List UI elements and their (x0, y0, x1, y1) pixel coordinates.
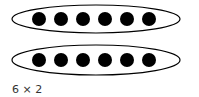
group-1 (12, 5, 180, 33)
group-2 (12, 45, 180, 75)
dot (98, 12, 112, 26)
dot (120, 12, 134, 26)
dot (32, 53, 46, 67)
dot (98, 53, 112, 67)
dot (142, 12, 156, 26)
dot (76, 53, 90, 67)
dot (76, 12, 90, 26)
dot (54, 53, 68, 67)
dot (32, 12, 46, 26)
dot (142, 53, 156, 67)
dot (120, 53, 134, 67)
dot (54, 12, 68, 26)
multiplication-caption: 6 × 2 (12, 84, 42, 96)
